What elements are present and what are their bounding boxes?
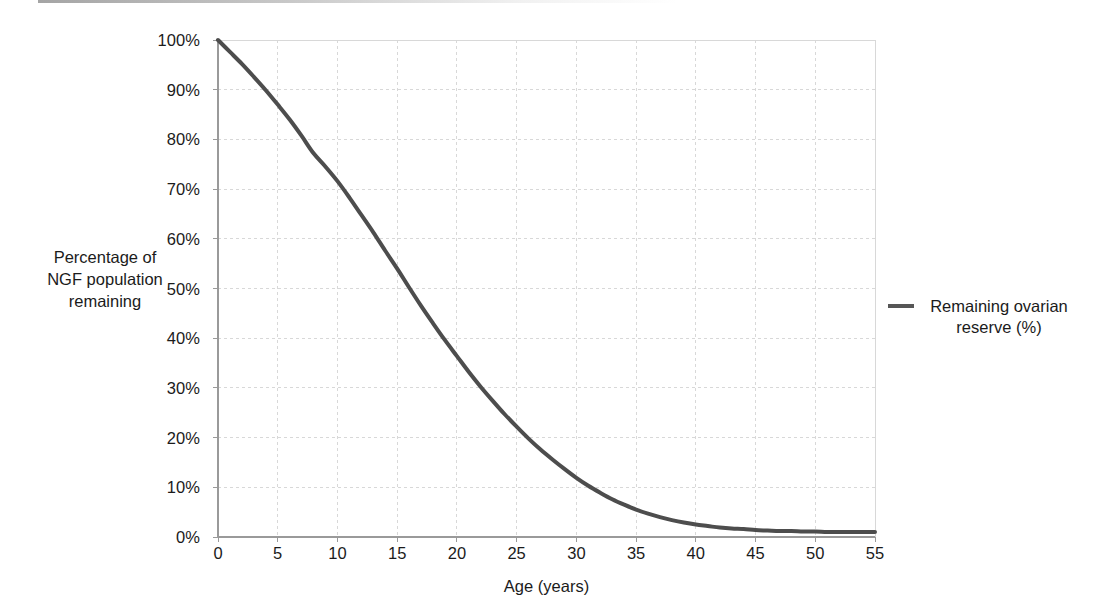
data-line-remaining-ovarian-reserve [218, 40, 875, 532]
y-tick-label-30: 30% [167, 380, 200, 397]
plot-area [218, 40, 875, 537]
x-tick-label-15: 15 [388, 545, 406, 562]
x-tick-label-40: 40 [687, 545, 705, 562]
legend-line-swatch [888, 304, 914, 308]
chart-legend: Remaining ovarian reserve (%) [888, 296, 1088, 338]
x-tick-label-55: 55 [866, 545, 884, 562]
axis-lines [213, 40, 875, 542]
legend-label-line-1: Remaining ovarian [930, 297, 1068, 315]
y-tick-label-100: 100% [157, 32, 200, 49]
x-tick-label-45: 45 [746, 545, 764, 562]
y-tick-label-70: 70% [167, 181, 200, 198]
y-axis-title-line-1: Percentage of [24, 246, 186, 268]
y-tick-label-60: 60% [167, 231, 200, 248]
x-axis-title: Age (years) [218, 578, 875, 595]
horizontal-gridlines [218, 40, 875, 537]
x-tick-label-35: 35 [627, 545, 645, 562]
legend-label-remaining-ovarian-reserve: Remaining ovarian reserve (%) [915, 296, 1083, 338]
y-tick-label-40: 40% [167, 330, 200, 347]
y-tick-label-90: 90% [167, 81, 200, 98]
x-tick-label-0: 0 [213, 545, 222, 562]
x-tick-label-30: 30 [567, 545, 585, 562]
x-tick-label-20: 20 [448, 545, 466, 562]
y-tick-label-10: 10% [167, 479, 200, 496]
line-chart-figure: 0%10%20%30%40%50%60%70%80%90%100% Percen… [0, 0, 1101, 607]
x-axis-tick-labels: 0510152025303540455055 [218, 545, 875, 569]
y-axis-title-line-2: NGF population [24, 268, 186, 290]
y-tick-label-0: 0% [176, 529, 200, 546]
y-tick-label-80: 80% [167, 131, 200, 148]
x-tick-label-25: 25 [507, 545, 525, 562]
x-tick-label-5: 5 [273, 545, 282, 562]
y-axis-title: Percentage of NGF population remaining [24, 246, 186, 312]
legend-label-line-2: reserve (%) [956, 318, 1041, 336]
y-tick-label-20: 20% [167, 429, 200, 446]
x-tick-label-10: 10 [328, 545, 346, 562]
y-axis-title-line-3: remaining [24, 290, 186, 312]
x-tick-label-50: 50 [806, 545, 824, 562]
plot-svg [218, 40, 875, 537]
